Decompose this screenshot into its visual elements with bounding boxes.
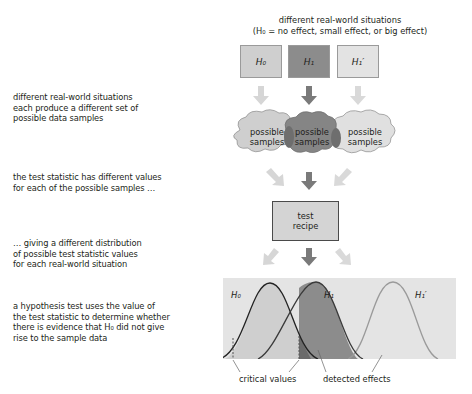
arrow-converge-icon bbox=[266, 168, 352, 190]
arrow-down-icon bbox=[253, 86, 366, 105]
test-recipe-label: test recipe bbox=[293, 211, 319, 231]
cloud-left-label: possible samples bbox=[242, 127, 292, 147]
critical-values-label: critical values bbox=[239, 374, 296, 384]
h1-curve-label: H₁ bbox=[324, 290, 334, 300]
detected-effects-label: detected effects bbox=[323, 374, 391, 384]
arrow-diverge-icon bbox=[263, 248, 351, 266]
note-samples: different real-world situations each pro… bbox=[13, 92, 138, 124]
note-hypothesis-test: a hypothesis test uses the value of the … bbox=[13, 301, 170, 343]
h0-curve-label: H₀ bbox=[231, 290, 241, 300]
distribution-panel: H₀ H₁ H₁′ bbox=[223, 278, 456, 359]
test-recipe-box: test recipe bbox=[272, 201, 339, 241]
cloud-right-label: possible samples bbox=[340, 127, 390, 147]
note-test-statistic: the test statistic has different values … bbox=[13, 172, 162, 193]
note-distribution: … giving a different distribution of pos… bbox=[13, 238, 142, 270]
cloud-middle-label: possible samples bbox=[288, 127, 336, 147]
h1-prime-curve-label: H₁′ bbox=[415, 290, 427, 300]
